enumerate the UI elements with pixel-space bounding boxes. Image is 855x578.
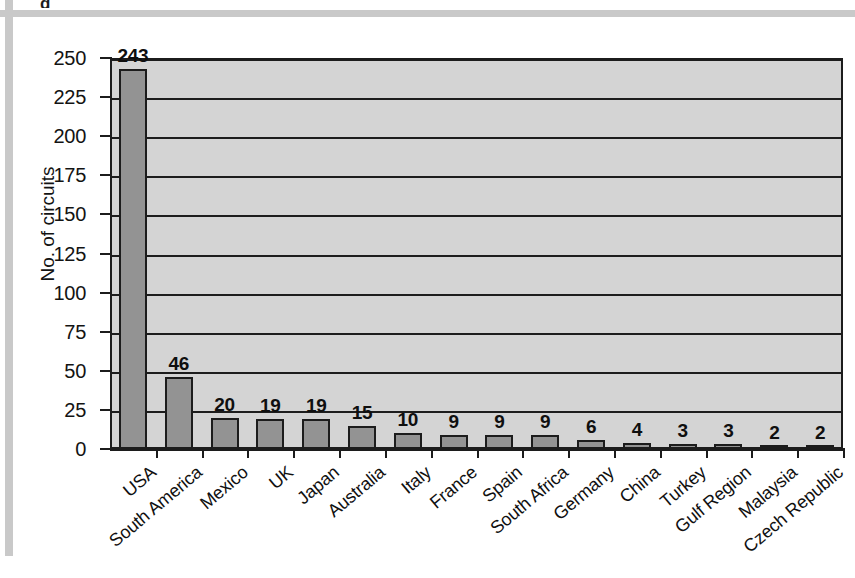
bar[interactable]: 19 bbox=[302, 58, 330, 449]
bar[interactable]: 3 bbox=[714, 58, 742, 449]
bar-value-label: 243 bbox=[118, 45, 149, 67]
y-tick-label: 100 bbox=[54, 281, 86, 304]
bar-rect[interactable] bbox=[394, 433, 422, 449]
bar[interactable]: 4 bbox=[623, 58, 651, 449]
bar-rect[interactable] bbox=[531, 435, 559, 449]
x-tick-mark bbox=[293, 449, 295, 458]
y-tick-label: 200 bbox=[54, 125, 86, 148]
bar[interactable]: 10 bbox=[394, 58, 422, 449]
bar[interactable]: 9 bbox=[440, 58, 468, 449]
bar-value-label: 10 bbox=[398, 409, 419, 431]
bar-value-label: 46 bbox=[168, 353, 189, 375]
x-tick-label: UK bbox=[265, 462, 297, 494]
y-tick-label: 150 bbox=[54, 203, 86, 226]
bar-rect[interactable] bbox=[302, 419, 330, 449]
bar-value-label: 9 bbox=[448, 411, 458, 433]
x-tick-mark bbox=[385, 449, 387, 458]
x-tick-mark bbox=[706, 449, 708, 458]
bar-value-label: 20 bbox=[214, 394, 235, 416]
y-tick-label: 50 bbox=[64, 359, 86, 382]
bar-value-label: 19 bbox=[306, 395, 327, 417]
x-tick-label: China bbox=[616, 462, 665, 508]
x-tick-mark bbox=[522, 449, 524, 458]
x-tick-mark bbox=[660, 449, 662, 458]
x-tick-mark bbox=[614, 449, 616, 458]
x-tick-mark bbox=[339, 449, 341, 458]
bar[interactable]: 9 bbox=[485, 58, 513, 449]
bar[interactable]: 2 bbox=[760, 58, 788, 449]
bar[interactable]: 9 bbox=[531, 58, 559, 449]
x-tick-mark bbox=[431, 449, 433, 458]
bar-rect[interactable] bbox=[119, 69, 147, 449]
bar-value-label: 15 bbox=[352, 402, 373, 424]
x-tick-label: France bbox=[426, 462, 481, 513]
x-tick-mark bbox=[247, 449, 249, 458]
bar-value-label: 9 bbox=[540, 411, 550, 433]
bar-value-label: 3 bbox=[723, 420, 733, 442]
y-tick-label: 75 bbox=[64, 320, 86, 343]
bar-rect[interactable] bbox=[165, 377, 193, 449]
bar-value-label: 3 bbox=[678, 420, 688, 442]
bar-value-label: 2 bbox=[815, 422, 825, 444]
x-tick-mark bbox=[843, 449, 845, 458]
y-tick-label: 175 bbox=[54, 164, 86, 187]
x-tick-label: Mexico bbox=[196, 462, 252, 514]
bar-chart: No. of circuits 025507510012515017520022… bbox=[0, 0, 855, 578]
bar-value-label: 2 bbox=[769, 422, 779, 444]
bar-value-label: 4 bbox=[632, 419, 642, 441]
x-tick-mark bbox=[477, 449, 479, 458]
bar-rect[interactable] bbox=[211, 418, 239, 449]
bar-rect[interactable] bbox=[348, 426, 376, 449]
bar-value-label: 19 bbox=[260, 395, 281, 417]
x-tick-mark bbox=[568, 449, 570, 458]
bar[interactable]: 2 bbox=[806, 58, 834, 449]
bar-rect[interactable] bbox=[256, 419, 284, 449]
bar-value-label: 6 bbox=[586, 416, 596, 438]
bar[interactable]: 15 bbox=[348, 58, 376, 449]
bar[interactable]: 3 bbox=[669, 58, 697, 449]
bar[interactable]: 243 bbox=[119, 58, 147, 449]
bar[interactable]: 46 bbox=[165, 58, 193, 449]
y-tick-label: 0 bbox=[75, 438, 86, 461]
bar-rect[interactable] bbox=[440, 435, 468, 449]
x-tick-mark bbox=[797, 449, 799, 458]
x-tick-mark bbox=[751, 449, 753, 458]
y-tick-label: 125 bbox=[54, 242, 86, 265]
y-tick-label: 25 bbox=[64, 398, 86, 421]
bar[interactable]: 19 bbox=[256, 58, 284, 449]
bar[interactable]: 20 bbox=[211, 58, 239, 449]
bar-value-label: 9 bbox=[494, 411, 504, 433]
bars-layer: 243462019191510999643322 bbox=[110, 58, 843, 449]
y-tick-label: 225 bbox=[54, 86, 86, 109]
x-tick-mark bbox=[156, 449, 158, 458]
x-tick-mark bbox=[202, 449, 204, 458]
bar-rect[interactable] bbox=[485, 435, 513, 449]
y-tick-label: 250 bbox=[54, 47, 86, 70]
y-axis: No. of circuits 025507510012515017520022… bbox=[0, 0, 110, 578]
bar[interactable]: 6 bbox=[577, 58, 605, 449]
